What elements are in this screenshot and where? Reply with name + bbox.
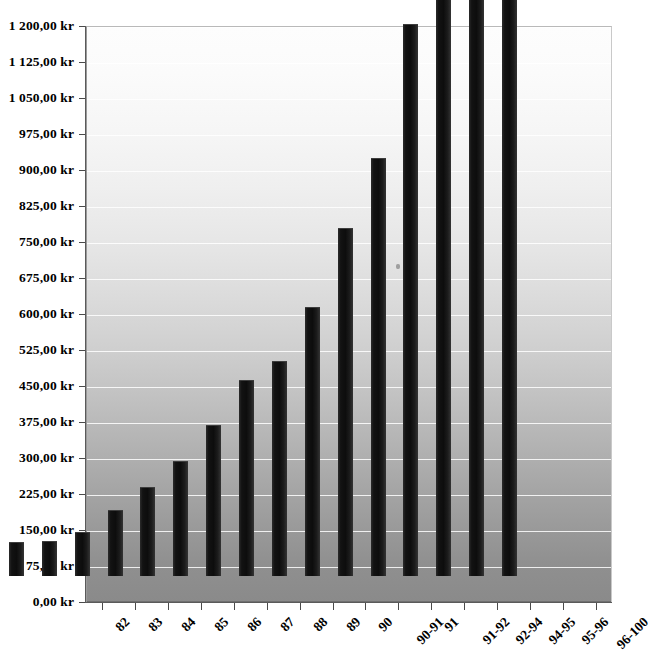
bars-layer (0, 0, 526, 576)
x-axis-tick-label: 90-91 (415, 615, 447, 647)
bar (140, 487, 155, 576)
x-axis-tick-label: 92-94 (513, 615, 545, 647)
x-axis-tick-label: 82 (113, 615, 132, 634)
bar (9, 542, 24, 576)
x-axis-tick-label: 96-100 (614, 615, 651, 652)
x-axis-tick-mark (431, 603, 432, 610)
x-axis-tick-mark (333, 603, 334, 610)
bar (305, 307, 320, 576)
bar (239, 380, 254, 576)
x-axis-tick-label: 95-96 (579, 615, 611, 647)
bar (502, 0, 517, 576)
bar (338, 228, 353, 576)
x-axis-tick-label: 88 (311, 615, 330, 634)
bar (436, 0, 451, 576)
x-axis-tick-label: 91-92 (480, 615, 512, 647)
bar (272, 361, 287, 576)
bar (469, 0, 484, 576)
bar (75, 532, 90, 576)
bar (42, 541, 57, 576)
x-axis-tick-label: 85 (212, 615, 231, 634)
x-axis-tick-mark (563, 603, 564, 610)
x-axis-tick-mark (596, 603, 597, 610)
x-axis-tick-label: 89 (344, 615, 363, 634)
bar (108, 510, 123, 576)
x-axis-tick-mark (168, 603, 169, 610)
x-axis-tick-label: 83 (146, 615, 165, 634)
x-axis-tick-mark (102, 603, 103, 610)
x-axis-tick-label: 90 (376, 615, 395, 634)
y-axis-tick-label: 0,00 kr (33, 595, 74, 609)
x-axis-tick-mark (135, 603, 136, 610)
x-axis-line (86, 602, 612, 603)
x-axis-tick-label: 94-95 (546, 615, 578, 647)
bar (371, 158, 386, 576)
x-axis-tick-label: 87 (278, 615, 297, 634)
x-axis-tick-mark (267, 603, 268, 610)
x-axis-tick-label: 84 (179, 615, 198, 634)
x-axis-tick-mark (398, 603, 399, 610)
x-axis-tick-mark (300, 603, 301, 610)
x-axis-tick-mark (234, 603, 235, 610)
x-axis-tick-mark (530, 603, 531, 610)
x-axis-tick-label: 86 (245, 615, 264, 634)
x-axis-tick-label: 91 (442, 615, 461, 634)
x-axis-tick-mark (201, 603, 202, 610)
bar (403, 24, 418, 576)
scan-speckle-artifact (396, 264, 400, 269)
x-axis-tick-mark (464, 603, 465, 610)
figure-caption (4, 655, 424, 664)
bar (206, 425, 221, 576)
x-axis-tick-mark (497, 603, 498, 610)
bar (173, 461, 188, 576)
x-axis-tick-mark (365, 603, 366, 610)
